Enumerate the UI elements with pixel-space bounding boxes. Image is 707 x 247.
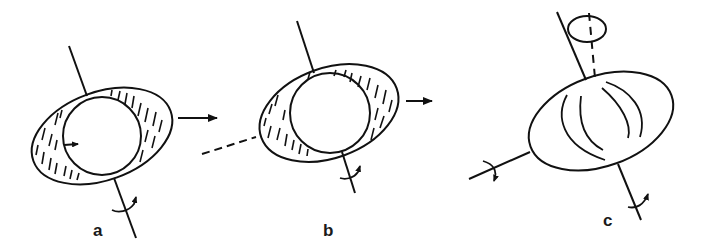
- panel-c: c: [469, 12, 687, 230]
- rotation-axis-lower: [114, 178, 136, 238]
- panel-label-a: a: [93, 221, 103, 240]
- panel-a: a: [18, 46, 217, 240]
- dashed-axis: [202, 137, 256, 154]
- ellipsoid-body: [515, 53, 687, 189]
- rotation-axis: [69, 46, 87, 96]
- rotation-axis-lower: [342, 152, 355, 193]
- panel-b: b: [202, 21, 432, 240]
- inner-arrow: [64, 144, 78, 145]
- inscribed-sphere: [63, 97, 141, 175]
- vertical-dashed-axis: [589, 13, 595, 78]
- meridian-lines: [562, 82, 642, 160]
- rotation-axis: [297, 21, 314, 73]
- panel-label-b: b: [323, 221, 333, 240]
- figure-diagram: a b: [0, 0, 707, 247]
- panel-label-c: c: [603, 211, 612, 230]
- lower-axis: [618, 164, 641, 220]
- precession-circle: [568, 16, 606, 42]
- left-axis: [469, 152, 530, 179]
